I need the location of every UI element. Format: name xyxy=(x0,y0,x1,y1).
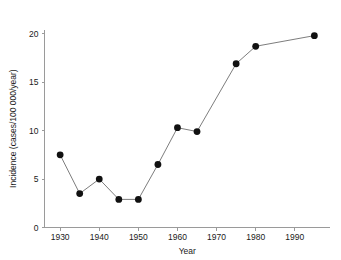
x-tick-label: 1980 xyxy=(246,232,265,242)
y-tick-label: 10 xyxy=(29,126,39,136)
data-point xyxy=(155,161,162,168)
data-point xyxy=(96,176,103,183)
data-point xyxy=(135,196,142,203)
x-tick-label: 1960 xyxy=(168,232,187,242)
y-tick-label: 5 xyxy=(34,174,39,184)
x-tick-label: 1950 xyxy=(129,232,148,242)
y-tick-label: 20 xyxy=(29,29,39,39)
data-point xyxy=(252,43,259,50)
x-tick-label: 1940 xyxy=(90,232,109,242)
data-point xyxy=(115,196,122,203)
x-tick-label: 1930 xyxy=(51,232,70,242)
data-point xyxy=(311,32,318,39)
chart-background xyxy=(0,0,341,260)
y-tick-label: 0 xyxy=(34,223,39,233)
x-axis-title: Year xyxy=(179,246,196,256)
line-chart: 05101520 1930194019501960197019801990 Ye… xyxy=(0,0,341,260)
y-tick-label: 15 xyxy=(29,77,39,87)
y-axis-title: Incidence (cases/100 000/year) xyxy=(8,69,18,188)
data-point xyxy=(57,151,64,158)
data-point xyxy=(194,128,201,135)
x-tick-label: 1970 xyxy=(207,232,226,242)
chart-container: 05101520 1930194019501960197019801990 Ye… xyxy=(0,0,341,260)
data-point xyxy=(233,60,240,67)
x-tick-label: 1990 xyxy=(285,232,304,242)
data-point xyxy=(76,190,83,197)
data-point xyxy=(174,124,181,131)
